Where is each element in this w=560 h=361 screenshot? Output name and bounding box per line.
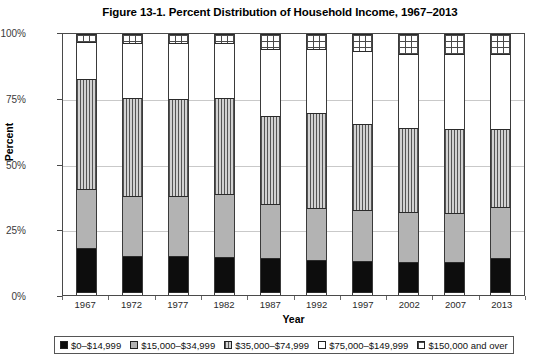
bar-segment[interactable] (491, 54, 510, 130)
legend-item[interactable]: $35,000–$74,999 (224, 340, 309, 351)
bar-stack[interactable] (306, 34, 327, 295)
bar-segment[interactable] (445, 129, 464, 214)
bar-segment[interactable] (399, 128, 418, 213)
bar-segment[interactable] (215, 98, 234, 195)
bar-segment[interactable] (77, 248, 96, 293)
bar-column[interactable] (63, 34, 109, 295)
bar-segment[interactable] (215, 194, 234, 258)
bar-segment[interactable] (491, 258, 510, 292)
x-tick-mark (62, 296, 63, 300)
bar-segment[interactable] (491, 34, 510, 55)
bar-column[interactable] (340, 34, 386, 295)
bar-stack[interactable] (444, 34, 465, 295)
x-tick-label: 1997 (340, 299, 386, 310)
bar-segment[interactable] (307, 260, 326, 293)
bar-segment[interactable] (77, 79, 96, 189)
x-tick-label: 1992 (293, 299, 339, 310)
bar-stack[interactable] (76, 34, 97, 295)
bar-stack[interactable] (122, 34, 143, 295)
bar-segment[interactable] (261, 258, 280, 292)
x-tick-label: 2002 (386, 299, 432, 310)
bar-stack[interactable] (352, 34, 373, 295)
legend-swatch-icon (60, 341, 68, 349)
x-tick-label: 1987 (247, 299, 293, 310)
bar-column[interactable] (386, 34, 432, 295)
bar-segment[interactable] (123, 43, 142, 98)
bar-column[interactable] (201, 34, 247, 295)
legend-item[interactable]: $75,000–$149,999 (318, 340, 408, 351)
legend-item[interactable]: $0–$14,999 (60, 340, 121, 351)
bar-segment[interactable] (169, 256, 188, 293)
x-tick-label: 2007 (432, 299, 478, 310)
bar-column[interactable] (478, 34, 524, 295)
bar-segment[interactable] (77, 42, 96, 80)
legend-item[interactable]: $150,000 and over (417, 340, 507, 351)
bar-segment[interactable] (261, 116, 280, 205)
x-tick-mark (432, 296, 433, 300)
bar-segment[interactable] (353, 51, 372, 125)
legend-swatch-icon (417, 341, 425, 349)
bar-segment[interactable] (307, 34, 326, 50)
bar-segment[interactable] (215, 257, 234, 293)
bar-segment[interactable] (399, 212, 418, 263)
bar-segment[interactable] (491, 129, 510, 208)
bar-column[interactable] (293, 34, 339, 295)
bar-segment[interactable] (445, 262, 464, 292)
legend-label: $150,000 and over (428, 340, 507, 351)
bar-segment[interactable] (169, 43, 188, 100)
bar-segment[interactable] (77, 189, 96, 249)
bar-segment[interactable] (445, 54, 464, 130)
x-tick-mark (247, 296, 248, 300)
bar-segment[interactable] (215, 43, 234, 98)
x-axis-ticks: 1967197219771982198719921997200220072013 (62, 299, 525, 310)
bar-stack[interactable] (398, 34, 419, 295)
x-tick-mark (479, 296, 480, 300)
x-tick-label: 2013 (479, 299, 525, 310)
bar-segment[interactable] (399, 262, 418, 292)
legend-item[interactable]: $15,000–$34,999 (130, 340, 215, 351)
bar-segment[interactable] (123, 196, 142, 256)
x-tick-mark (386, 296, 387, 300)
bar-segment[interactable] (307, 113, 326, 209)
x-tick-label: 1972 (108, 299, 154, 310)
bar-segment[interactable] (353, 34, 372, 52)
x-tick-mark (108, 296, 109, 300)
bars-layer (63, 34, 524, 295)
bar-segment[interactable] (123, 256, 142, 293)
x-tick-label: 1977 (155, 299, 201, 310)
bar-segment[interactable] (261, 49, 280, 117)
bar-column[interactable] (432, 34, 478, 295)
chart-legend: $0–$14,999$15,000–$34,999$35,000–$74,999… (54, 336, 514, 354)
bar-segment[interactable] (353, 261, 372, 293)
legend-swatch-icon (318, 341, 326, 349)
bar-segment[interactable] (307, 49, 326, 115)
y-tick-label: 50% (0, 159, 26, 170)
bar-segment[interactable] (169, 99, 188, 198)
plot-area (62, 33, 525, 296)
x-tick-label: 1982 (201, 299, 247, 310)
bar-segment[interactable] (445, 34, 464, 55)
bar-segment[interactable] (399, 34, 418, 55)
bar-column[interactable] (109, 34, 155, 295)
bar-segment[interactable] (307, 208, 326, 261)
bar-segment[interactable] (445, 213, 464, 263)
bar-stack[interactable] (168, 34, 189, 295)
legend-label: $15,000–$34,999 (141, 340, 215, 351)
bar-segment[interactable] (353, 124, 372, 211)
bar-segment[interactable] (261, 204, 280, 259)
y-tick-label: 75% (0, 93, 26, 104)
y-tick-label: 25% (0, 225, 26, 236)
bar-segment[interactable] (491, 207, 510, 260)
bar-segment[interactable] (261, 34, 280, 50)
bar-segment[interactable] (399, 54, 418, 129)
bar-stack[interactable] (260, 34, 281, 295)
legend-swatch-icon (130, 341, 138, 349)
bar-segment[interactable] (123, 98, 142, 198)
bar-column[interactable] (247, 34, 293, 295)
bar-column[interactable] (155, 34, 201, 295)
y-axis-label: Percent (3, 97, 15, 187)
bar-stack[interactable] (490, 34, 511, 295)
bar-segment[interactable] (353, 210, 372, 263)
bar-segment[interactable] (169, 196, 188, 256)
bar-stack[interactable] (214, 34, 235, 295)
